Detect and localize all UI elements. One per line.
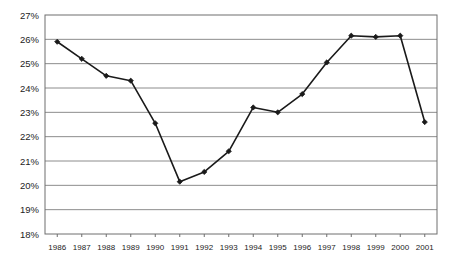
y-axis-tick-label: 27% <box>20 10 40 21</box>
x-axis-tick-label: 1989 <box>122 243 140 252</box>
x-axis-tick-label: 2001 <box>416 243 434 252</box>
x-axis-tick-label: 1997 <box>318 243 336 252</box>
x-axis-tick-label: 2000 <box>391 243 409 252</box>
x-axis-tick-label: 1999 <box>367 243 385 252</box>
y-axis-tick-label: 18% <box>20 229 40 240</box>
x-axis-tick-label: 1998 <box>342 243 360 252</box>
x-axis-tick-label: 1992 <box>195 243 213 252</box>
x-axis-tick-label: 1996 <box>293 243 311 252</box>
y-axis-tick-label: 26% <box>20 34 40 45</box>
x-axis-tick-label: 1986 <box>48 243 66 252</box>
y-axis-tick-label: 19% <box>20 204 40 215</box>
x-axis-tick-label: 1990 <box>146 243 164 252</box>
x-axis-tick-label: 1988 <box>97 243 115 252</box>
x-axis-tick-label: 1995 <box>269 243 287 252</box>
chart-canvas: 27%26%25%24%23%22%21%20%19%18% 198619871… <box>0 0 450 263</box>
x-axis-tick-label: 1991 <box>171 243 189 252</box>
y-axis-tick-label: 23% <box>20 107 40 118</box>
x-axis-tick-label: 1994 <box>244 243 262 252</box>
y-axis-tick-label: 21% <box>20 156 40 167</box>
y-axis-tick-label: 24% <box>20 83 40 94</box>
y-axis-tick-label: 25% <box>20 58 40 69</box>
line-chart: 27%26%25%24%23%22%21%20%19%18% 198619871… <box>0 0 450 263</box>
y-axis-tick-label: 20% <box>20 180 40 191</box>
x-axis-tick-label: 1987 <box>73 243 91 252</box>
y-axis-tick-label: 22% <box>20 131 40 142</box>
x-axis-tick-label: 1993 <box>220 243 238 252</box>
